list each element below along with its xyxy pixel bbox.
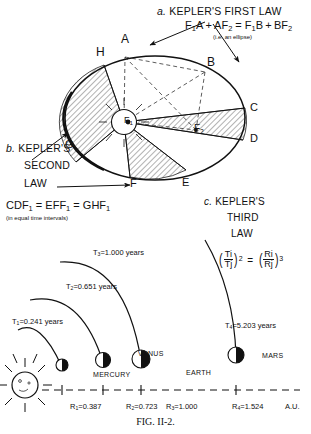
ratio-R: RiRj	[263, 250, 274, 269]
orbit-arcs	[18, 240, 236, 367]
second-law-title-2: SECOND	[24, 160, 70, 171]
period-label-mercury: T1=0.241 years	[12, 318, 63, 326]
period-label-mars: T4=5.203 years	[225, 322, 276, 330]
radius-label-venus: R2=0.723	[126, 403, 157, 411]
orbit-arc-venus	[30, 299, 103, 362]
first-law-note: (i.e. an ellipse)	[213, 34, 252, 40]
formula-sub-4: 2	[288, 24, 292, 33]
orbit-arc-earth	[60, 262, 141, 360]
exponent-3: 3	[279, 255, 283, 262]
axis-unit-label: A.U.	[285, 403, 300, 411]
planet-name-mercury: MERCURY	[93, 371, 130, 378]
planet-name-earth: EARTH	[186, 369, 211, 376]
planet-venus	[96, 353, 111, 368]
sector-CDF1	[124, 108, 247, 140]
planet-mars	[228, 347, 244, 363]
ellipse-label-C: C	[250, 102, 258, 113]
planet-name-mars: MARS	[262, 352, 283, 359]
radius-label-mars: R4=1.524	[232, 403, 263, 411]
ellipse-label-H: H	[96, 46, 105, 58]
focus1-label: F1	[124, 116, 133, 126]
ratio-T: TiTj	[224, 250, 234, 269]
radius-label-earth: R3=1.000	[166, 403, 197, 411]
second-law-heading: b. KEPLER'S	[6, 143, 70, 154]
formula-term-af2: A + AF	[196, 19, 228, 31]
third-law-marker: c.	[204, 196, 212, 207]
third-law-title-3: LAW	[231, 229, 253, 239]
paren-close-left: )	[234, 251, 238, 268]
formula-ghf1: GHF	[83, 199, 106, 211]
period-label-earth: T3=1.000 years	[93, 249, 144, 257]
second-law-title-1: KEPLER'S	[18, 142, 70, 154]
formula-term-f1a: F	[185, 19, 192, 31]
second-law-note: (in equal time intervals)	[6, 215, 68, 221]
third-law-equals: =	[247, 255, 253, 266]
first-law-title: KEPLER'S FIRST LAW	[169, 5, 281, 17]
planet-mercury	[56, 359, 68, 371]
au-axis	[30, 385, 300, 395]
third-law-title-2: THIRD	[227, 213, 259, 223]
formula-sub-2: 2	[228, 24, 232, 33]
paren-open-left: (	[219, 251, 223, 268]
formula-term-f1b: F	[245, 19, 252, 31]
second-law-marker: b.	[6, 142, 15, 154]
first-law-formula: F1A + AF2 = F1B + BF2	[185, 20, 292, 32]
paren-close-right: )	[275, 251, 279, 268]
second-law-title-3: LAW	[24, 178, 47, 189]
third-law-title-1: KEPLER'S	[215, 196, 265, 207]
arrow-to-second-law-F	[57, 185, 130, 187]
radius-label-mercury: R1=0.387	[70, 403, 101, 411]
figure-kepler-laws: a. KEPLER'S FIRST LAW F1A + AF2 = F1B + …	[0, 0, 311, 434]
focus2-label: F2	[194, 124, 204, 135]
formula-equals: =	[235, 19, 241, 31]
ellipse-label-E: E	[182, 177, 189, 188]
ellipse-label-D: D	[250, 133, 258, 144]
period-label-venus: T2=0.651 years	[66, 283, 117, 291]
paren-open-right: (	[259, 251, 263, 268]
planet-name-venus: VENUS	[138, 350, 164, 357]
sun-origin	[0, 354, 52, 412]
third-law-formula: (TiTj)2 = (RiRj)3	[218, 250, 283, 269]
formula-cdf1: CDF	[6, 199, 29, 211]
third-law-heading: c. KEPLER'S	[204, 197, 265, 207]
ellipse-label-B: B	[207, 56, 215, 68]
formula-eff1: EFF	[45, 199, 66, 211]
ellipse-label-F: F	[130, 178, 137, 189]
ellipse-label-A: A	[121, 33, 129, 45]
second-law-formula: CDF1 = EFF1 = GHF1	[6, 200, 110, 212]
exponent-2: 2	[239, 255, 243, 262]
figure-caption: FIG. II-2.	[0, 417, 311, 427]
formula-term-bf2: B + BF	[256, 19, 288, 31]
first-law-marker: a.	[157, 5, 166, 17]
first-law-heading: a. KEPLER'S FIRST LAW	[157, 6, 282, 17]
